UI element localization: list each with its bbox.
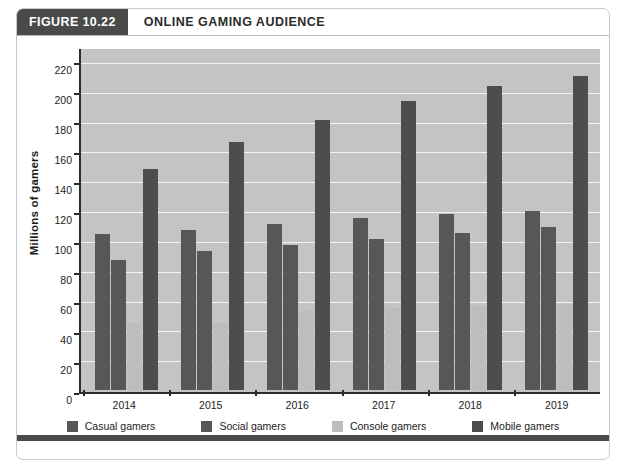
year-group — [514, 49, 600, 390]
x-axis-label: 2014 — [81, 399, 168, 411]
x-axis-tick-mark — [514, 390, 516, 396]
y-axis-tick-mark — [74, 183, 79, 185]
bar[interactable] — [385, 308, 400, 390]
bar[interactable] — [229, 142, 244, 390]
plot-area — [79, 49, 600, 394]
bottom-rule — [17, 435, 609, 441]
bar[interactable] — [95, 234, 110, 390]
bars-layer — [83, 49, 600, 390]
chart-body: Millions of gamers 020406080100120140160… — [17, 37, 609, 432]
y-axis-tick-mark — [74, 333, 79, 335]
figure-number-badge: FIGURE 10.22 — [17, 9, 128, 35]
y-axis-tick-mark — [74, 93, 79, 95]
bar[interactable] — [401, 101, 416, 390]
x-axis-tick-mark — [342, 390, 344, 396]
legend-label: Console gamers — [350, 420, 426, 432]
bar[interactable] — [439, 214, 454, 390]
y-axis-tick-mark — [74, 363, 79, 365]
x-axis-label: 2018 — [427, 399, 514, 411]
y-axis-tick-mark — [74, 273, 79, 275]
chart-legend: Casual gamersSocial gamersConsole gamers… — [17, 420, 609, 432]
x-axis-label: 2016 — [254, 399, 341, 411]
bar[interactable] — [557, 304, 572, 390]
bar[interactable] — [315, 120, 330, 390]
x-axis-labels: 201420152016201720182019 — [81, 399, 600, 411]
x-axis-label: 2015 — [168, 399, 255, 411]
bar[interactable] — [143, 169, 158, 390]
x-axis-tick-mark — [428, 390, 430, 396]
legend-item[interactable]: Mobile gamers — [472, 420, 559, 432]
legend-item[interactable]: Console gamers — [332, 420, 426, 432]
x-axis-tick-mark — [255, 390, 257, 396]
plot-wrapper: 020406080100120140160180200220 — [79, 49, 600, 394]
bar[interactable] — [525, 211, 540, 390]
legend-swatch-icon — [67, 421, 78, 432]
x-axis-label: 2019 — [514, 399, 601, 411]
bar[interactable] — [127, 323, 142, 390]
legend-swatch-icon — [201, 421, 212, 432]
bar[interactable] — [369, 239, 384, 390]
legend-swatch-icon — [472, 421, 483, 432]
bar[interactable] — [541, 227, 556, 390]
year-group — [428, 49, 514, 390]
legend-item[interactable]: Social gamers — [201, 420, 286, 432]
x-axis-tick-mark — [169, 390, 171, 396]
bar[interactable] — [213, 323, 228, 390]
figure-card: FIGURE 10.22 ONLINE GAMING AUDIENCE Mill… — [16, 8, 610, 460]
y-axis-tick-mark — [74, 303, 79, 305]
bar[interactable] — [487, 86, 502, 390]
figure-title: ONLINE GAMING AUDIENCE — [128, 9, 325, 35]
bar[interactable] — [111, 260, 126, 390]
bar[interactable] — [197, 251, 212, 390]
bar[interactable] — [353, 218, 368, 390]
y-axis-tick-mark — [74, 243, 79, 245]
legend-item[interactable]: Casual gamers — [67, 420, 156, 432]
legend-label: Casual gamers — [85, 420, 156, 432]
year-group — [83, 49, 169, 390]
y-axis-title: Millions of gamers — [28, 123, 40, 283]
y-axis-tick-mark — [74, 213, 79, 215]
x-axis-label: 2017 — [341, 399, 428, 411]
year-group — [255, 49, 341, 390]
legend-swatch-icon — [332, 421, 343, 432]
year-group — [342, 49, 428, 390]
bar[interactable] — [181, 230, 196, 390]
y-axis-tick-mark — [74, 153, 79, 155]
bar[interactable] — [455, 233, 470, 390]
x-axis-tick-mark — [83, 390, 85, 396]
bar[interactable] — [299, 311, 314, 390]
y-axis-tick-mark — [74, 393, 79, 395]
legend-label: Mobile gamers — [490, 420, 559, 432]
bar[interactable] — [573, 76, 588, 390]
legend-label: Social gamers — [219, 420, 286, 432]
y-axis-tick-mark — [74, 123, 79, 125]
bar[interactable] — [283, 245, 298, 390]
bar[interactable] — [471, 306, 486, 391]
figure-header: FIGURE 10.22 ONLINE GAMING AUDIENCE — [17, 9, 609, 36]
year-group — [169, 49, 255, 390]
y-axis-tick-mark — [74, 63, 79, 65]
bar[interactable] — [267, 224, 282, 390]
